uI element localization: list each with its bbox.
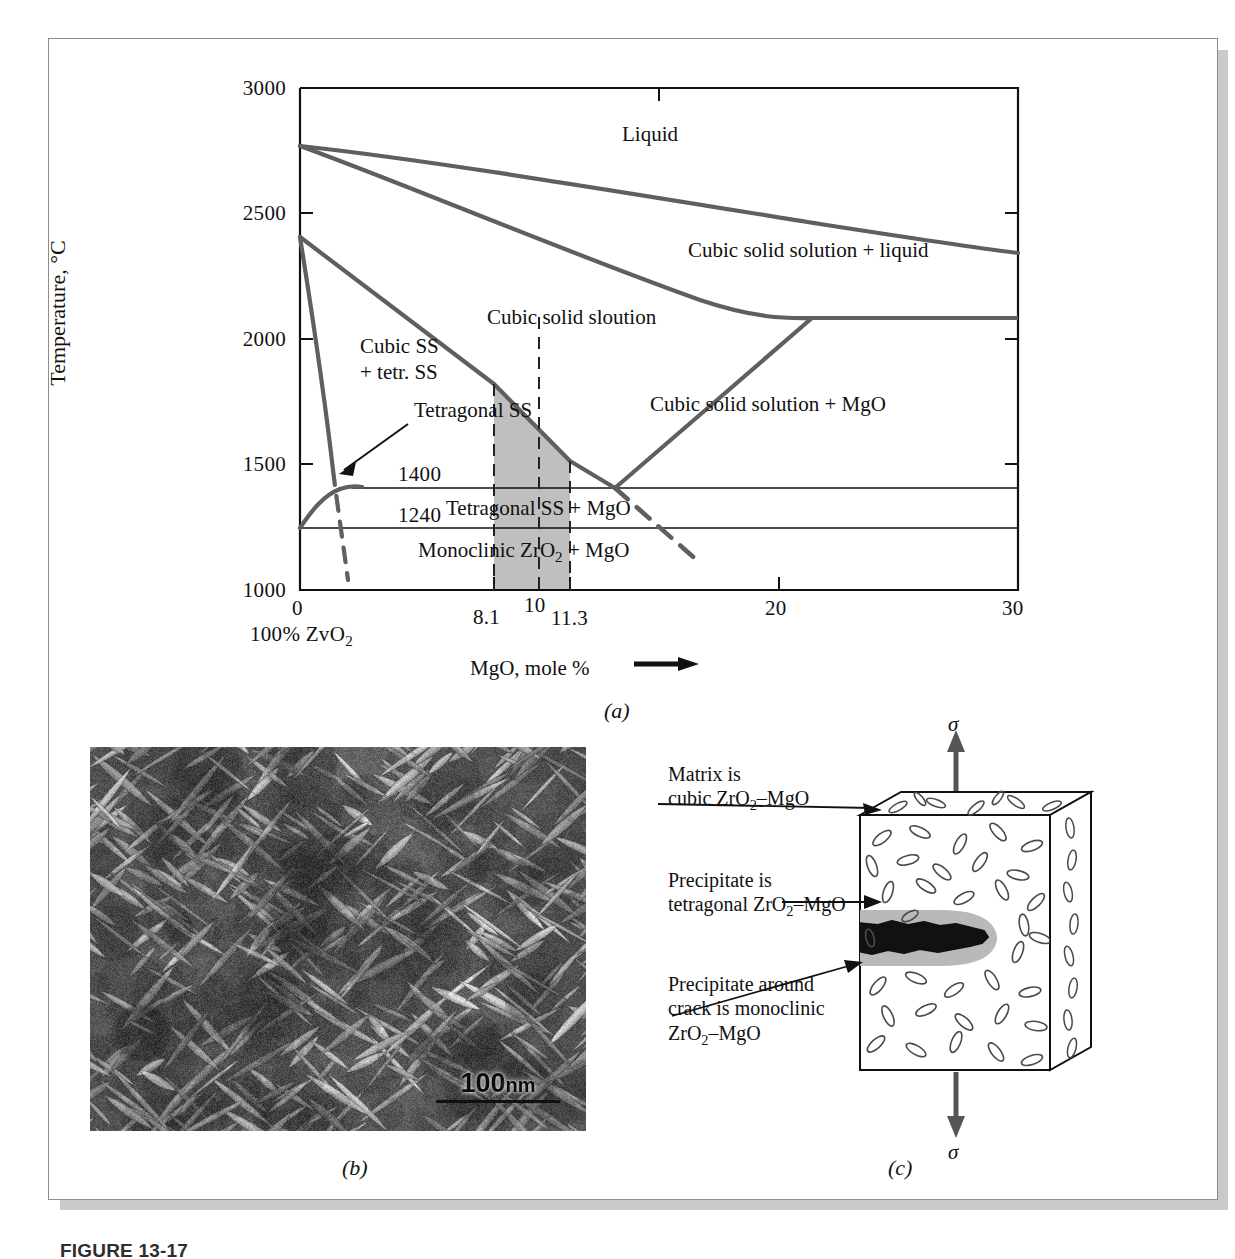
x-axis-title: MgO, mole %	[470, 656, 590, 681]
callout-matrix: Matrix is cubic ZrO2–MgO	[668, 762, 809, 815]
callout-crack-sub: 2	[701, 1032, 708, 1048]
field-label-cubic-ss-liquid: Cubic solid solution + liquid	[688, 238, 929, 263]
liquidus-curve	[300, 146, 1018, 253]
y-tick-2000: 2000	[198, 327, 286, 352]
monoclinic-post: + MgO	[563, 538, 630, 562]
callout-crack-line3-text: ZrO	[668, 1022, 701, 1044]
figure-caption: FIGURE 13-17	[60, 1240, 188, 1259]
tetragonal-ss-arrowhead	[339, 462, 356, 476]
field-label-cubic-ss-line2: + tetr. SS	[360, 360, 438, 385]
callout-precipitate-line2-text: tetragonal ZrO	[668, 893, 786, 915]
y-axis-title: Temperature, °C	[45, 193, 71, 433]
callout-crack-line3: ZrO2–MgO	[668, 1021, 825, 1050]
panel-tag-b: (b)	[342, 1155, 368, 1181]
x-tick-8-1: 8.1	[473, 605, 500, 630]
x-tick-10: 10	[524, 593, 546, 618]
field-label-liquid: Liquid	[622, 122, 678, 147]
origin-composition-sub: 2	[345, 633, 353, 649]
field-label-monoclinic-zro2-mgo: Monoclinic ZrO2 + MgO	[418, 538, 629, 567]
tetragonal-boundary-solid	[300, 237, 333, 470]
x-tick-0: 0	[292, 596, 303, 621]
callout-precipitate-line2-end: –MgO	[793, 893, 845, 915]
panel-tag-c: (c)	[888, 1155, 912, 1181]
scale-bar-unit: nm	[506, 1074, 536, 1096]
y-tick-2500: 2500	[198, 201, 286, 226]
x-tick-11-3: 11.3	[551, 606, 588, 631]
panel-c-schematic: σ σ Matrix is cubic ZrO2–MgO Precipitate…	[620, 720, 1180, 1160]
figure-number: FIGURE 13-17	[60, 1240, 188, 1259]
field-label-tetragonal-ss: Tetragonal SS	[414, 398, 532, 423]
isotherm-label-1400: 1400	[398, 462, 441, 487]
x-axis-ticks	[300, 577, 1018, 590]
callout-matrix-line1: Matrix is	[668, 762, 809, 786]
field-label-cubic-ss-line1: Cubic SS	[360, 334, 439, 359]
callout-matrix-line2: cubic ZrO2–MgO	[668, 786, 809, 815]
panel-b-micrograph: 100nm	[90, 747, 586, 1131]
origin-composition-note: 100% ZvO2	[250, 622, 353, 650]
y-tick-1500: 1500	[198, 452, 286, 477]
callout-precipitate: Precipitate is tetragonal ZrO2–MgO	[668, 868, 846, 921]
stress-symbol-top: σ	[948, 712, 958, 737]
callout-crack: Precipitate around crack is monoclinic Z…	[668, 972, 825, 1049]
callout-crack-line2: crack is monoclinic	[668, 996, 825, 1020]
callout-matrix-line2-text: cubic ZrO	[668, 787, 750, 809]
callout-crack-line1: Precipitate around	[668, 972, 825, 996]
stress-arrow-top	[947, 730, 965, 796]
solidus-curve	[300, 146, 812, 318]
y-tick-3000: 3000	[198, 76, 286, 101]
stress-symbol-bottom: σ	[948, 1140, 958, 1165]
phase-diagram-svg	[0, 0, 1235, 700]
x-tick-30: 30	[1002, 596, 1024, 621]
cubic-solvus-curve	[300, 237, 615, 488]
panel-a-phase-diagram: 3000 2500 2000 1500 1000 Temperature, °C…	[0, 0, 1235, 700]
field-label-tetragonal-ss-mgo: Tetragonal SS + MgO	[446, 496, 631, 521]
monoclinic-sub: 2	[555, 549, 563, 565]
scale-bar: 100nm	[436, 1070, 560, 1103]
monoclinic-pre: Monoclinic ZrO	[418, 538, 555, 562]
scale-bar-label: 100nm	[436, 1070, 560, 1097]
callout-precipitate-line2: tetragonal ZrO2–MgO	[668, 892, 846, 921]
field-label-cubic-ss-mgo: Cubic solid solution + MgO	[650, 392, 886, 417]
x-axis-title-arrow	[634, 657, 699, 671]
monoclinic-dome	[300, 486, 362, 528]
y-tick-1000: 1000	[198, 578, 286, 603]
x-tick-20: 20	[765, 596, 787, 621]
callout-precipitate-line1: Precipitate is	[668, 868, 846, 892]
scale-bar-line	[436, 1100, 560, 1103]
field-label-cubic-solid-solution: Cubic solid sloution	[487, 305, 656, 330]
scale-bar-value: 100	[460, 1068, 505, 1098]
isotherm-label-1240: 1240	[398, 503, 441, 528]
origin-composition-text: 100% ZvO	[250, 622, 345, 646]
callout-matrix-line2-end: –MgO	[757, 787, 809, 809]
callout-crack-line3-end: –MgO	[709, 1022, 761, 1044]
callout-matrix-sub: 2	[750, 797, 757, 813]
stress-arrow-bottom	[947, 1072, 965, 1138]
